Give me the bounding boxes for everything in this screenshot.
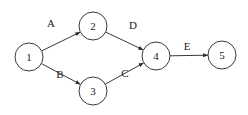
node-4: 4 — [142, 42, 170, 70]
edge-label-b: B — [56, 68, 63, 80]
edge-label-a: A — [47, 17, 55, 29]
network-diagram: A B C D E 1 2 3 4 — [0, 0, 248, 115]
edge-label-e: E — [184, 40, 191, 52]
edge-label-c: C — [121, 67, 128, 79]
edge-label-d: D — [129, 19, 137, 31]
node-3: 3 — [79, 77, 107, 105]
node-1: 1 — [15, 43, 43, 71]
node-1-label: 1 — [26, 51, 32, 63]
edge-e-arrow — [170, 55, 208, 56]
node-2-label: 2 — [90, 20, 96, 32]
node-4-label: 4 — [153, 50, 159, 62]
edge-a-arrow — [42, 32, 81, 51]
node-3-label: 3 — [90, 85, 96, 97]
node-5-label: 5 — [219, 49, 225, 61]
node-5: 5 — [208, 41, 236, 69]
edge-d-arrow — [106, 32, 144, 50]
node-2: 2 — [79, 12, 107, 40]
